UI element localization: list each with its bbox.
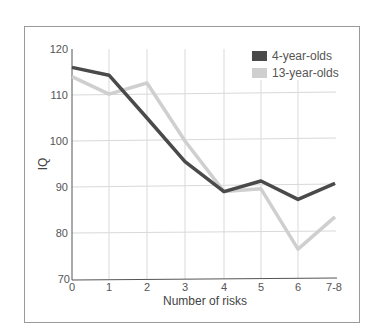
series-line-4-year-olds [72, 67, 335, 199]
y-tick-100: 100 [50, 135, 68, 147]
x-axis-title: Number of risks [163, 294, 247, 308]
legend-label-13-year-olds: 13-year-olds [272, 66, 339, 80]
y-tick-80: 80 [56, 227, 68, 239]
x-tick-5: 5 [258, 281, 264, 293]
series-line-13-year-olds [72, 77, 335, 250]
y-tick-120: 120 [50, 43, 68, 55]
legend: 4-year-olds 13-year-olds [252, 49, 339, 80]
line-chart: 120 110 100 90 80 70 0 1 2 3 4 5 6 7-8 N… [0, 0, 375, 333]
y-tick-90: 90 [56, 181, 68, 193]
legend-swatch-13-year-olds [252, 68, 267, 78]
x-tick-1: 1 [106, 281, 112, 293]
legend-swatch-4-year-olds [252, 51, 267, 61]
y-axis-title: IQ [36, 158, 50, 171]
x-tick-3: 3 [182, 281, 188, 293]
x-tick-7-8: 7-8 [326, 281, 342, 293]
legend-label-4-year-olds: 4-year-olds [272, 49, 332, 63]
x-tick-2: 2 [144, 281, 150, 293]
x-tick-6: 6 [295, 281, 301, 293]
x-tick-0: 0 [69, 281, 75, 293]
x-tick-labels: 0 1 2 3 4 5 6 7-8 [69, 281, 342, 293]
y-tick-110: 110 [50, 89, 68, 101]
y-tick-labels: 120 110 100 90 80 70 [50, 43, 70, 285]
x-tick-4: 4 [221, 281, 227, 293]
